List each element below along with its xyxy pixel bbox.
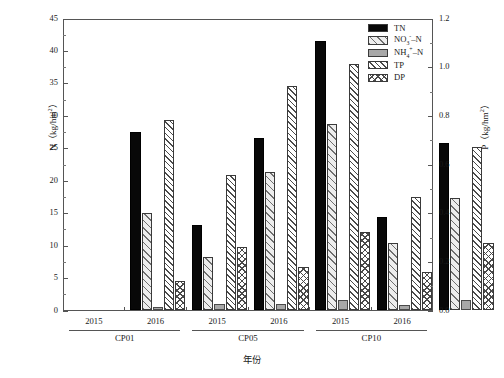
x-axis-year-label: 2015 bbox=[68, 316, 120, 326]
y-axis-tick-label-right: 0.0 bbox=[439, 306, 449, 315]
bar-tn-cp01-2016 bbox=[192, 225, 202, 310]
bar-tp-cp05-2015 bbox=[287, 86, 297, 310]
y-axis-tick-right bbox=[428, 165, 433, 166]
y-axis-minor-tick-right bbox=[430, 238, 433, 239]
y-axis-tick-label-left: 15 bbox=[25, 208, 58, 217]
legend-swatch-nh4-n bbox=[368, 49, 388, 57]
bar-no3-n-cp01-2015 bbox=[142, 213, 152, 310]
x-axis-tick bbox=[248, 307, 249, 311]
bar-nh4-n-cp10-2015 bbox=[399, 305, 409, 310]
x-axis-tick bbox=[371, 307, 372, 311]
legend-label-tn: TN bbox=[394, 24, 405, 33]
y-axis-tick-label-left: 45 bbox=[25, 14, 58, 23]
y-axis-minor-tick-right bbox=[430, 92, 433, 93]
legend-item-nh4-n[interactable]: NH4+–N bbox=[368, 47, 423, 59]
y-axis-minor-tick-left bbox=[63, 165, 66, 166]
bar-no3-n-cp05-2016 bbox=[327, 124, 337, 310]
x-axis-tick bbox=[124, 307, 125, 311]
legend-swatch-dp bbox=[368, 74, 388, 82]
bar-nh4-n-cp05-2015 bbox=[276, 304, 286, 310]
bar-tn-cp05-2015 bbox=[254, 138, 264, 310]
y-axis-tick-label-right: 1.0 bbox=[439, 62, 449, 71]
legend-item-no3-n[interactable]: NO3-–N bbox=[368, 34, 423, 46]
y-axis-minor-tick-left bbox=[63, 197, 66, 198]
legend-label-no3-n: NO3-–N bbox=[394, 34, 422, 46]
figure-container: N（kg/hm2） P（kg/hm2） TNNO3-–NNH4+–NTPDP 年… bbox=[0, 0, 504, 378]
y-axis-minor-tick-right bbox=[430, 140, 433, 141]
y-axis-minor-tick-left bbox=[63, 100, 66, 101]
y-axis-tick-label-right: 1.2 bbox=[439, 14, 449, 23]
y-axis-tick-left bbox=[63, 116, 68, 117]
y-axis-tick-label-left: 25 bbox=[25, 143, 58, 152]
y-axis-tick-left bbox=[63, 181, 68, 182]
legend-label-tp: TP bbox=[394, 61, 404, 70]
y-axis-tick-right bbox=[428, 262, 433, 263]
y-axis-minor-tick-left bbox=[63, 132, 66, 133]
y-axis-tick-label-right: 0.4 bbox=[439, 208, 449, 217]
y-axis-tick-right bbox=[428, 19, 433, 20]
y-axis-tick-label-left: 35 bbox=[25, 78, 58, 87]
bar-dp-cp01-2015 bbox=[175, 281, 185, 310]
y-axis-tick-label-left: 0 bbox=[25, 306, 58, 315]
y-axis-tick-left bbox=[63, 148, 68, 149]
figure-caption bbox=[0, 370, 504, 378]
x-axis-year-label: 2015 bbox=[315, 316, 367, 326]
x-axis-tick bbox=[309, 307, 310, 311]
y-axis-tick-label-right: 0.8 bbox=[439, 111, 449, 120]
y-axis-tick-right bbox=[428, 311, 433, 312]
y-axis-tick-left bbox=[63, 213, 68, 214]
bar-nh4-n-cp01-2015 bbox=[153, 307, 163, 310]
y-axis-tick-label-left: 20 bbox=[25, 176, 58, 185]
legend-label-dp: DP bbox=[394, 73, 405, 82]
y-axis-tick-label-left: 40 bbox=[25, 46, 58, 55]
y-axis-tick-label-left: 10 bbox=[25, 241, 58, 250]
legend-item-tp[interactable]: TP bbox=[368, 59, 423, 71]
chart-legend: TNNO3-–NNH4+–NTPDP bbox=[368, 22, 423, 84]
x-axis-year-label: 2016 bbox=[253, 316, 305, 326]
y-axis-minor-tick-left bbox=[63, 35, 66, 36]
legend-item-tn[interactable]: TN bbox=[368, 22, 423, 34]
y-axis-minor-tick-right bbox=[430, 43, 433, 44]
y-axis-tick-left bbox=[63, 51, 68, 52]
y-axis-minor-tick-right bbox=[430, 189, 433, 190]
y-axis-minor-tick-right bbox=[430, 286, 433, 287]
x-axis-group-rule bbox=[192, 330, 303, 331]
legend-item-dp[interactable]: DP bbox=[368, 72, 423, 84]
y-axis-tick-label-right: 0.2 bbox=[439, 257, 449, 266]
y-axis-tick-right bbox=[428, 116, 433, 117]
x-axis-group-rule bbox=[69, 330, 180, 331]
bar-no3-n-cp01-2016 bbox=[203, 257, 213, 310]
x-axis-group-label-cp10: CP10 bbox=[316, 333, 427, 343]
bar-tp-cp01-2015 bbox=[164, 120, 174, 310]
y-axis-tick-left bbox=[63, 246, 68, 247]
x-axis-year-label: 2016 bbox=[130, 316, 182, 326]
bar-no3-n-cp10-2016 bbox=[450, 198, 460, 310]
y-axis-minor-tick-left bbox=[63, 229, 66, 230]
bar-nh4-n-cp10-2016 bbox=[461, 300, 471, 310]
bar-tn-cp05-2016 bbox=[315, 41, 325, 310]
x-axis-year-label: 2015 bbox=[191, 316, 243, 326]
x-axis-year-label: 2016 bbox=[376, 316, 428, 326]
bar-nh4-n-cp05-2016 bbox=[338, 300, 348, 310]
legend-label-nh4-n: NH4+–N bbox=[394, 47, 423, 59]
bar-dp-cp05-2016 bbox=[360, 232, 370, 310]
y-axis-minor-tick-left bbox=[63, 262, 66, 263]
legend-swatch-tp bbox=[368, 61, 388, 69]
legend-swatch-no3-n bbox=[368, 36, 388, 44]
y-axis-tick-left bbox=[63, 311, 68, 312]
y-axis-minor-tick-left bbox=[63, 67, 66, 68]
y-axis-tick-label-left: 30 bbox=[25, 111, 58, 120]
y-axis-minor-tick-left bbox=[63, 294, 66, 295]
x-axis-title: 年份 bbox=[0, 352, 504, 366]
bar-tp-cp01-2016 bbox=[226, 175, 236, 310]
y-axis-tick-right bbox=[428, 67, 433, 68]
bar-dp-cp05-2015 bbox=[298, 267, 308, 310]
bar-dp-cp01-2016 bbox=[237, 247, 247, 310]
bar-tp-cp10-2016 bbox=[472, 147, 482, 310]
x-axis-tick bbox=[186, 307, 187, 311]
bar-tp-cp10-2015 bbox=[411, 197, 421, 310]
x-axis-group-rule bbox=[316, 330, 427, 331]
bar-nh4-n-cp01-2016 bbox=[214, 304, 224, 310]
y-axis-tick-left bbox=[63, 83, 68, 84]
bar-no3-n-cp10-2015 bbox=[388, 243, 398, 310]
